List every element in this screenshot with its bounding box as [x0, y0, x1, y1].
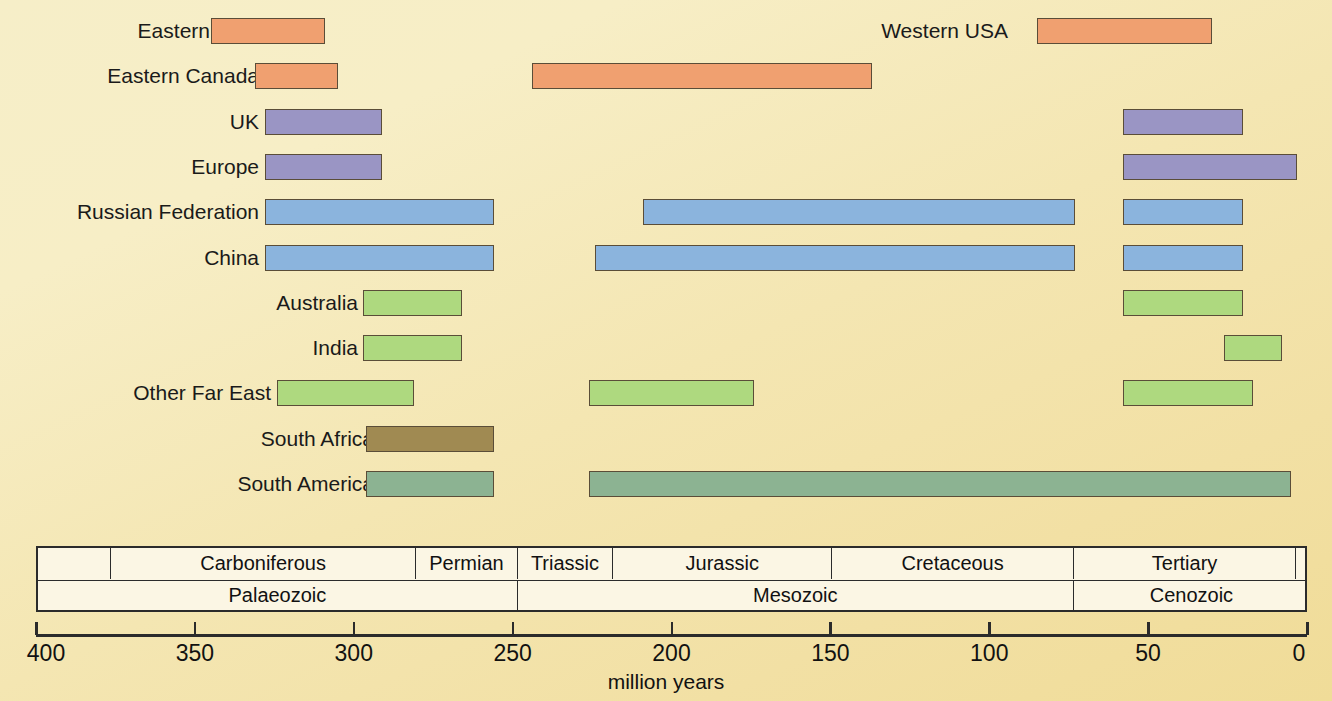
x-axis-tick — [35, 622, 38, 635]
era-row: PalaeozoicMesozoicCenozoic — [38, 580, 1305, 613]
range-bar — [643, 199, 1075, 225]
chart-row: Australia — [0, 286, 1332, 320]
range-bar — [1224, 335, 1281, 361]
x-axis-tick-label: 350 — [176, 640, 214, 667]
range-bar — [211, 18, 325, 44]
range-bar — [1123, 199, 1244, 225]
row-label: Europe — [191, 150, 266, 184]
period-cell: Permian — [416, 548, 518, 579]
chart-row: South America — [0, 467, 1332, 501]
x-axis-tick — [829, 622, 832, 635]
range-bar — [1037, 18, 1212, 44]
x-axis-tick-label: 100 — [970, 640, 1008, 667]
range-bar — [589, 471, 1291, 497]
range-bar — [366, 471, 493, 497]
period-cell: Carboniferous — [111, 548, 416, 579]
period-cell: Triassic — [518, 548, 613, 579]
x-axis-tick — [194, 622, 197, 635]
x-axis-tick-label: 250 — [493, 640, 531, 667]
range-bar — [1123, 290, 1244, 316]
x-axis-tick-label: 400 — [27, 640, 65, 667]
row-label: South America — [237, 467, 381, 501]
period-cell: Jurassic — [613, 548, 832, 579]
range-bar — [595, 245, 1075, 271]
x-axis-tick — [671, 622, 674, 635]
row-label: Australia — [276, 286, 365, 320]
range-bar — [589, 380, 754, 406]
x-axis-tick-label: 0 — [1293, 640, 1306, 667]
row-label: UK — [230, 105, 266, 139]
range-bar — [265, 245, 494, 271]
geologic-timescale: CarboniferousPermianTriassicJurassicCret… — [36, 546, 1307, 612]
period-cell — [1296, 548, 1309, 579]
range-bar — [363, 290, 462, 316]
chart-row: India — [0, 331, 1332, 365]
row-label: China — [204, 241, 266, 275]
era-cell: Palaeozoic — [38, 580, 518, 611]
range-bar — [265, 109, 383, 135]
x-axis-title: million years — [0, 670, 1332, 694]
period-cell: Cretaceous — [832, 548, 1073, 579]
range-bar — [1123, 245, 1244, 271]
geologic-range-chart: Eastern USAEastern CanadaUKEuropeRussian… — [0, 0, 1332, 701]
range-bar — [532, 63, 872, 89]
row-label: Other Far East — [133, 376, 278, 410]
period-row: CarboniferousPermianTriassicJurassicCret… — [38, 548, 1305, 581]
row-label: Eastern Canada — [107, 59, 266, 93]
period-cell — [38, 548, 111, 579]
chart-row: Other Far East — [0, 376, 1332, 410]
range-bar — [366, 426, 493, 452]
x-axis-tick — [512, 622, 515, 635]
row-label: South Africa — [261, 422, 381, 456]
row-label: Russian Federation — [77, 195, 266, 229]
chart-row: South Africa — [0, 422, 1332, 456]
x-axis-tick — [988, 622, 991, 635]
x-axis-tick-label: 50 — [1135, 640, 1161, 667]
range-bar — [1123, 154, 1298, 180]
range-bar — [1123, 109, 1244, 135]
range-bar — [1123, 380, 1253, 406]
x-axis-tick-label: 200 — [652, 640, 690, 667]
x-axis-tick-label: 150 — [811, 640, 849, 667]
range-bar — [265, 154, 383, 180]
period-cell: Tertiary — [1074, 548, 1296, 579]
x-axis-tick — [1306, 622, 1309, 635]
chart-row: Russian Federation — [0, 195, 1332, 229]
x-axis-tick — [353, 622, 356, 635]
range-bar — [363, 335, 462, 361]
era-cell: Cenozoic — [1074, 580, 1309, 611]
chart-row: UK — [0, 105, 1332, 139]
range-bar — [265, 199, 494, 225]
x-axis-tick-label: 300 — [335, 640, 373, 667]
x-axis-tick — [1147, 622, 1150, 635]
row-label: India — [312, 331, 365, 365]
era-cell: Mesozoic — [518, 580, 1074, 611]
range-bar — [277, 380, 414, 406]
row-label-secondary: Western USA — [881, 14, 1015, 48]
range-bar — [255, 63, 338, 89]
chart-row: Europe — [0, 150, 1332, 184]
chart-row: China — [0, 241, 1332, 275]
